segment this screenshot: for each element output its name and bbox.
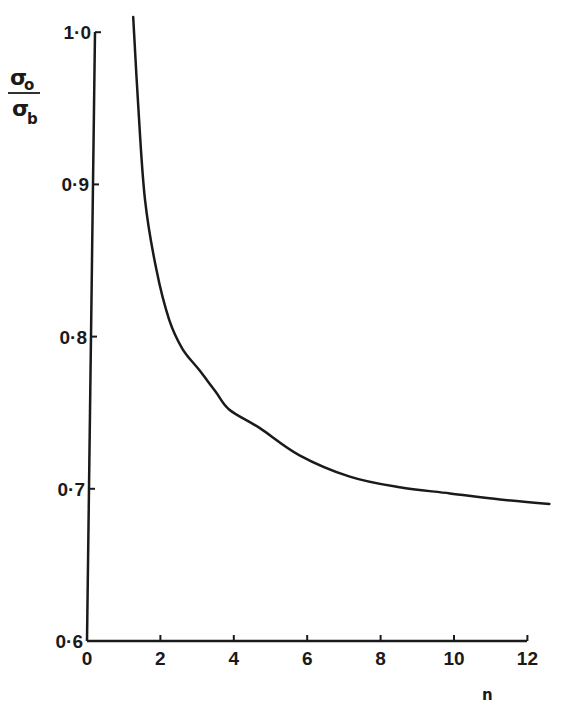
- x-tick-label: 6: [302, 648, 313, 669]
- x-tick-label: 0: [82, 648, 93, 669]
- y-tick-label: 0·6: [56, 631, 83, 652]
- y-tick-label: 1·0: [64, 22, 91, 43]
- y-title-denominator-sub: b: [27, 110, 38, 128]
- data-curve: [133, 17, 549, 504]
- y-tick-label: 0·8: [60, 327, 87, 348]
- x-axis-title: n: [482, 686, 493, 704]
- y-title-numerator-sub: o: [24, 76, 34, 94]
- x-tick-label: 2: [155, 648, 166, 669]
- y-axis-title: σ o σ b: [8, 65, 40, 128]
- x-tick-label: 8: [375, 648, 386, 669]
- y-tick-label: 0·9: [62, 174, 89, 195]
- y-tick-label: 0·7: [58, 479, 85, 500]
- x-tick-label: 4: [229, 648, 240, 669]
- x-tick-label: 12: [517, 648, 538, 669]
- x-tick-label: 10: [443, 648, 464, 669]
- chart: 0·60·70·80·91·0 024681012 σ o σ b n: [0, 0, 569, 719]
